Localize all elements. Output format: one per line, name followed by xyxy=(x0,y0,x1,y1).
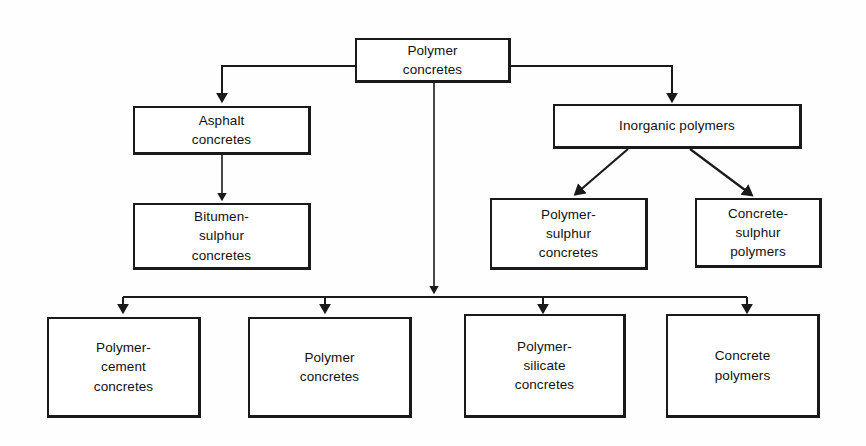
edge-inorganic-to-polymer-sulphur xyxy=(578,149,628,192)
node-polymer-concretes-root[interactable]: Polymer concretes xyxy=(355,38,511,83)
diagram-canvas: Polymer concretes Asphalt concretes Inor… xyxy=(0,0,866,446)
node-concrete-sulphur-polymers[interactable]: Concrete- sulphur polymers xyxy=(695,198,822,268)
bottom-distribution-bus xyxy=(123,297,747,309)
node-label: Polymer- sulphur concretes xyxy=(539,205,598,262)
node-polymer-silicate-concretes[interactable]: Polymer- silicate concretes xyxy=(464,314,626,418)
node-polymer-sulphur-concretes[interactable]: Polymer- sulphur concretes xyxy=(490,198,648,270)
node-polymer-concretes-bottom[interactable]: Polymer concretes xyxy=(248,317,412,418)
node-polymer-cement-concretes[interactable]: Polymer- cement concretes xyxy=(47,317,201,418)
edge-inorganic-to-concrete-sulphur xyxy=(690,149,749,193)
node-label: Inorganic polymers xyxy=(619,116,735,135)
edge-root-to-inorganic xyxy=(511,66,672,98)
node-inorganic-polymers[interactable]: Inorganic polymers xyxy=(553,104,802,149)
node-label: Concrete- sulphur polymers xyxy=(728,204,788,261)
node-label: Concrete polymers xyxy=(715,346,771,384)
node-concrete-polymers[interactable]: Concrete polymers xyxy=(666,314,820,418)
node-label: Polymer- silicate concretes xyxy=(515,337,574,394)
node-label: Bitumen- sulphur concretes xyxy=(192,207,251,264)
edge-root-to-asphalt xyxy=(222,66,355,98)
node-label: Polymer concretes xyxy=(403,41,462,79)
node-label: Polymer- cement concretes xyxy=(94,338,153,395)
node-asphalt-concretes[interactable]: Asphalt concretes xyxy=(133,106,311,155)
node-label: Polymer concretes xyxy=(300,348,359,386)
node-bitumen-sulphur-concretes[interactable]: Bitumen- sulphur concretes xyxy=(133,203,311,270)
node-label: Asphalt concretes xyxy=(192,111,251,149)
